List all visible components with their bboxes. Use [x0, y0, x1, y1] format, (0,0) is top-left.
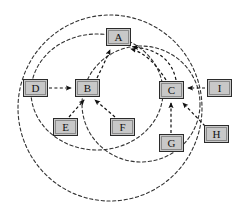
node-H-label: H — [213, 129, 221, 140]
node-D[interactable]: D — [23, 79, 48, 97]
node-C[interactable]: C — [159, 81, 184, 99]
node-C-label: C — [168, 85, 175, 96]
node-A[interactable]: A — [106, 28, 131, 46]
node-E[interactable]: E — [53, 118, 78, 136]
node-B[interactable]: B — [75, 79, 100, 97]
node-A-label: A — [115, 32, 123, 43]
diagram-canvas: A B C D E F G H I — [0, 0, 243, 211]
edge-E-to-B — [69, 100, 84, 117]
node-I[interactable]: I — [207, 79, 232, 97]
node-I-label: I — [218, 83, 222, 94]
node-F[interactable]: F — [110, 118, 135, 136]
node-G[interactable]: G — [159, 134, 184, 152]
node-E-label: E — [62, 122, 69, 133]
node-D-label: D — [32, 83, 40, 94]
edge-F-to-B — [95, 100, 115, 117]
node-H[interactable]: H — [204, 125, 229, 143]
node-G-label: G — [168, 138, 176, 149]
node-B-label: B — [84, 83, 91, 94]
node-F-label: F — [119, 122, 125, 133]
